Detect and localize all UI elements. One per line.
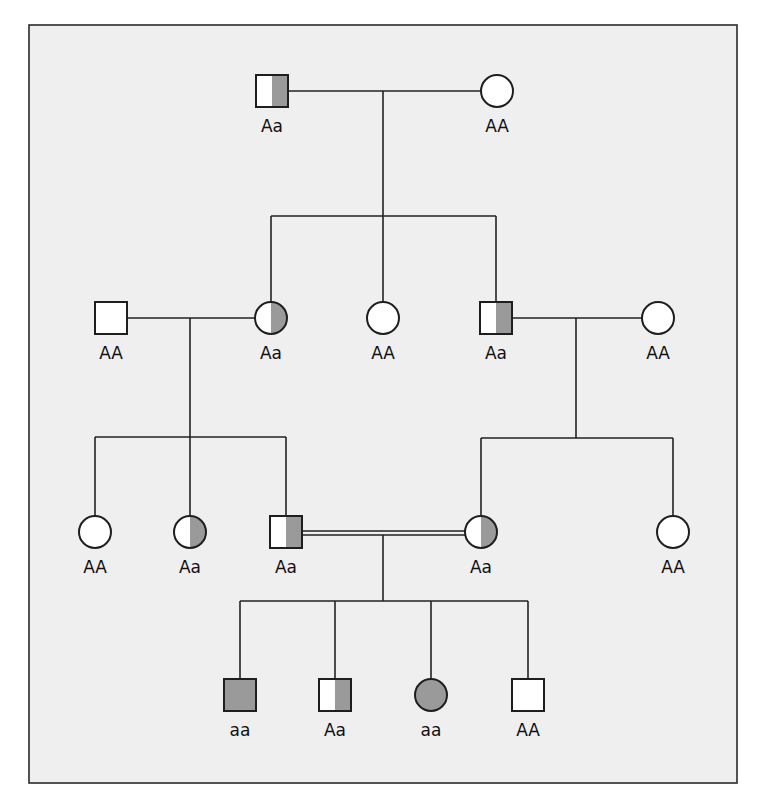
pedigree-chart: AaAAAAAaAAAaAAAAAaAaAaAAaaAaaaAA xyxy=(0,0,758,808)
genotype-label: aa xyxy=(230,720,251,740)
genotype-label: AA xyxy=(516,720,540,740)
individual-iv-4: AA xyxy=(512,679,544,740)
female-circle-symbol xyxy=(642,302,674,334)
genotype-label: Aa xyxy=(260,343,282,363)
genotype-label: Aa xyxy=(324,720,346,740)
female-circle-symbol xyxy=(657,516,689,548)
genotype-label: Aa xyxy=(470,557,492,577)
genotype-label: aa xyxy=(421,720,442,740)
female-circle-symbol xyxy=(367,302,399,334)
genotype-label: AA xyxy=(661,557,685,577)
female-circle-symbol xyxy=(481,75,513,107)
genotype-label: AA xyxy=(371,343,395,363)
individual-ii-1: AA xyxy=(95,302,127,363)
genotype-label: Aa xyxy=(485,343,507,363)
carrier-shaded-half xyxy=(272,75,288,107)
male-square-symbol xyxy=(512,679,544,711)
genotype-label: AA xyxy=(99,343,123,363)
carrier-shaded-half xyxy=(286,516,302,548)
female-circle-symbol xyxy=(415,679,447,711)
genotype-label: AA xyxy=(485,116,509,136)
male-square-symbol xyxy=(95,302,127,334)
genotype-label: Aa xyxy=(179,557,201,577)
male-square-symbol xyxy=(224,679,256,711)
genotype-label: Aa xyxy=(275,557,297,577)
carrier-shaded-half xyxy=(496,302,512,334)
carrier-shaded-half xyxy=(335,679,351,711)
female-circle-symbol xyxy=(79,516,111,548)
genotype-label: Aa xyxy=(261,116,283,136)
genotype-label: AA xyxy=(646,343,670,363)
genotype-label: AA xyxy=(83,557,107,577)
